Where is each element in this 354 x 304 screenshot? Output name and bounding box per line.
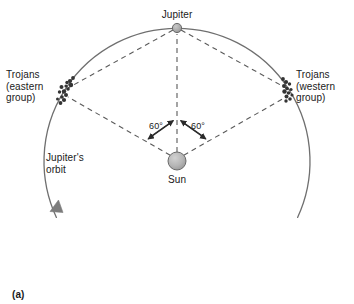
sun-label: Sun [0, 174, 354, 186]
sun-body [168, 152, 186, 170]
jupiter-body [172, 23, 181, 32]
figure-part-label: (a) [12, 289, 25, 301]
cropped-caption-artifact: ·· ·· ·· ·· [52, 0, 182, 4]
dashed-jupiter-eastern-trojans [68, 30, 173, 88]
trojans-eastern-label: Trojans (eastern group) [6, 69, 68, 104]
angle-label-left: 60° [144, 121, 168, 133]
dashed-jupiter-western-trojans [181, 30, 286, 88]
trojans-western-label: Trojans (western group) [296, 69, 354, 104]
jupiter-label: Jupiter [0, 9, 354, 21]
trojan-asteroid-diagram: ·· ·· ·· ·· Jupiter Sun Trojans (eastern… [0, 0, 354, 304]
jupiter-orbit-label: Jupiter's orbit [46, 152, 116, 175]
angle-label-right: 60° [186, 121, 210, 133]
